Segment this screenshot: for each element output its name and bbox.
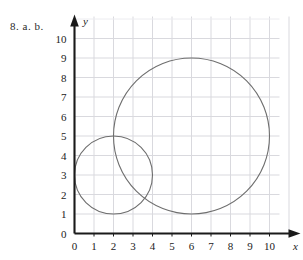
y-tick-label: 3 [61,169,67,181]
x-tick-label: 1 [91,240,97,252]
x-tick-label: 4 [150,240,156,252]
y-tick-label: 6 [61,111,67,123]
y-axis-arrowhead [70,15,79,27]
x-axis-arrowhead [289,229,301,238]
x-tick-label: 8 [228,240,234,252]
x-tick-label: 2 [111,240,117,252]
tick-labels-layer: 012345678910012345678910xy [56,15,299,252]
y-tick-label: 4 [61,150,67,162]
x-tick-label: 0 [72,240,78,252]
y-axis-label: y [82,15,88,27]
grid-layer [75,17,290,234]
x-tick-label: 10 [264,240,276,252]
figure-container: 8. a. b. 012345678910012345678910xy [0,0,303,260]
y-tick-label: 5 [61,130,67,142]
problem-label: 8. a. b. [10,20,44,32]
y-tick-label: 9 [61,52,67,64]
x-tick-label: 5 [169,240,175,252]
x-tick-label: 6 [189,240,195,252]
y-tick-label: 2 [61,189,67,201]
y-tick-label: 8 [61,72,67,84]
y-tick-label: 7 [61,91,67,103]
y-tick-label: 10 [56,33,68,45]
axes-layer [70,15,300,238]
x-tick-label: 3 [130,240,136,252]
y-tick-label: 0 [61,228,67,240]
x-tick-label: 7 [208,240,214,252]
x-axis-label: x [292,240,298,252]
coordinate-plot: 012345678910012345678910xy [0,0,303,260]
y-tick-label: 1 [61,208,67,220]
x-tick-label: 9 [247,240,253,252]
